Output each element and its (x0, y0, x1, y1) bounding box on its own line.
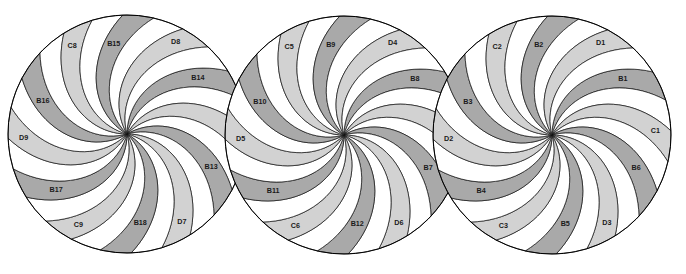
wedge-label-D6: D6 (394, 218, 403, 227)
wedge-label-B3: B3 (463, 97, 472, 106)
wedge-label-C6: C6 (291, 221, 300, 230)
wedge-label-D3: D3 (602, 218, 611, 227)
wedge-label-D5: D5 (236, 134, 245, 143)
wedge-label-D9: D9 (19, 133, 28, 142)
wedge-label-C3: C3 (499, 221, 508, 230)
wedge-label-B17: B17 (50, 185, 63, 194)
wedge-label-B10: B10 (253, 97, 266, 106)
wedge-label-B2: B2 (534, 40, 543, 49)
wedge-label-D8: D8 (171, 37, 180, 46)
wedge-label-B11: B11 (267, 186, 280, 195)
wedge-label-B4: B4 (477, 186, 486, 195)
wedge-label-C5: C5 (284, 42, 293, 51)
wedge-label-B7: B7 (423, 163, 432, 172)
wedge-label-C8: C8 (67, 41, 76, 50)
wedge-label-B6: B6 (631, 163, 640, 172)
figure-canvas: B14C7B13D7B18C9B17D9B16C8B15D8B8C4B7D6B1… (0, 0, 686, 274)
wedge-label-B8: B8 (410, 74, 419, 83)
wedge-label-C9: C9 (74, 220, 83, 229)
wedge-label-B15: B15 (107, 39, 120, 48)
wedge-label-D1: D1 (596, 38, 605, 47)
pinwheel-circle-middle: B8C4B7D6B12C6B11D5B10C5B9D4 (225, 16, 463, 254)
wedge-label-B13: B13 (205, 162, 218, 171)
wedge-label-C2: C2 (492, 42, 501, 51)
pinwheel-circle-right: B1C1B6D3B5C3B4D2B3C2B2D1 (433, 16, 671, 254)
wedge-label-B12: B12 (351, 219, 364, 228)
wedge-label-D7: D7 (177, 217, 186, 226)
wedge-label-C1: C1 (651, 126, 660, 135)
wedge-label-D2: D2 (444, 134, 453, 143)
pinwheel-figure: B14C7B13D7B18C9B17D9B16C8B15D8B8C4B7D6B1… (0, 0, 686, 274)
wedge-label-B16: B16 (36, 96, 49, 105)
wedge-label-B5: B5 (561, 219, 570, 228)
wedge-label-B14: B14 (191, 73, 204, 82)
wedge-label-B1: B1 (618, 74, 627, 83)
wedge-label-B18: B18 (134, 218, 147, 227)
wedge-label-D4: D4 (388, 38, 397, 47)
wedge-label-B9: B9 (326, 40, 335, 49)
pinwheel-circle-left: B14C7B13D7B18C9B17D9B16C8B15D8 (8, 15, 246, 253)
